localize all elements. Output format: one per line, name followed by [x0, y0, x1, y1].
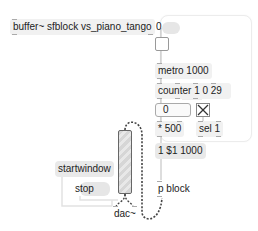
dac-object[interactable]: dac~	[111, 206, 139, 222]
counter-object[interactable]: counter 1 0 29	[155, 83, 231, 99]
buffer-object-label: buffer~ sfblock vs_piano_tango	[13, 21, 152, 32]
pblock-object[interactable]: p block	[155, 181, 193, 197]
toggle-box-icon[interactable]	[155, 37, 169, 51]
inlet	[113, 206, 118, 207]
dac-label: dac~	[114, 208, 136, 219]
number-top[interactable]: 0	[156, 20, 162, 34]
sel-label: sel 1	[199, 123, 220, 134]
outlet	[193, 98, 198, 99]
inlet	[157, 181, 162, 182]
outlet	[198, 136, 203, 137]
startwindow-message[interactable]: startwindow	[55, 161, 114, 177]
inlet	[216, 121, 221, 122]
message-list[interactable]: 1 $1 1000	[155, 143, 206, 159]
inlet	[175, 83, 180, 84]
stop-message[interactable]: stop	[72, 181, 97, 197]
outlet	[216, 136, 221, 137]
outlet	[12, 34, 17, 35]
inlet	[198, 121, 203, 122]
sel-object[interactable]: sel 1	[196, 121, 223, 137]
multiply-object[interactable]: * 500	[155, 121, 184, 137]
inlet	[157, 121, 162, 122]
outlet	[157, 136, 162, 137]
pblock-label: p block	[158, 183, 190, 194]
message-background	[162, 22, 180, 34]
metro-label: metro 1000	[158, 65, 209, 76]
x-box-icon[interactable]	[196, 103, 210, 117]
inlet	[211, 83, 216, 84]
counter-label: counter 1 0 29	[158, 85, 222, 96]
outlet	[148, 34, 153, 35]
outlet	[175, 98, 180, 99]
outlet	[157, 78, 162, 79]
inlet	[157, 83, 162, 84]
buffer-object[interactable]: buffer~ sfblock vs_piano_tango	[10, 19, 155, 35]
multiply-label: * 500	[158, 123, 181, 134]
number-box[interactable]: 0	[155, 103, 191, 117]
gain-slider-icon[interactable]	[118, 130, 132, 194]
outlet	[157, 196, 162, 197]
inlet	[193, 83, 198, 84]
inlet	[12, 19, 17, 20]
inlet	[132, 206, 137, 207]
inlet	[157, 63, 162, 64]
outlet	[157, 98, 162, 99]
metro-object[interactable]: metro 1000	[155, 63, 212, 79]
inlet	[177, 121, 182, 122]
